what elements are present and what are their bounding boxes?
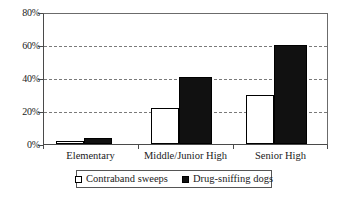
x-axis-tick-mark-right	[327, 145, 328, 149]
legend-entry-contraband-sweeps: Contraband sweeps	[75, 173, 168, 185]
bar-middle-junior-high-contraband-sweeps	[151, 108, 179, 144]
legend-entry-drug-sniffing-dogs: Drug-sniffing dogs	[182, 173, 273, 185]
bar-elementary-drug-sniffing-dogs	[84, 138, 112, 145]
bars-layer	[44, 14, 327, 144]
x-axis-tick-mark-left	[43, 145, 44, 149]
bar-group-senior-high	[246, 14, 321, 144]
y-axis-tick-label-0: 0%	[0, 140, 40, 150]
y-axis-tick-label-80: 80%	[0, 8, 40, 18]
bar-senior-high-drug-sniffing-dogs	[274, 45, 307, 144]
x-axis-label-middle-junior-high: Middle/Junior High	[138, 150, 233, 162]
x-axis-tick-mark-1	[138, 145, 139, 149]
legend-label-drug-sniffing-dogs: Drug-sniffing dogs	[193, 173, 273, 185]
white-square-icon	[75, 176, 82, 183]
bar-middle-junior-high-drug-sniffing-dogs	[179, 77, 212, 144]
x-axis-tick-mark-2	[233, 145, 234, 149]
bar-chart: 80% 60% 40% 20% 0% Elementary Middle/J	[0, 0, 343, 200]
bar-senior-high-contraband-sweeps	[246, 95, 274, 144]
y-axis-tick-label-40: 40%	[0, 74, 40, 84]
bar-group-elementary	[56, 14, 131, 144]
y-axis-tick-label-60: 60%	[0, 41, 40, 51]
y-axis-tick-label-20: 20%	[0, 107, 40, 117]
bar-group-middle-junior-high	[151, 14, 226, 144]
black-square-icon	[182, 176, 189, 183]
bar-elementary-contraband-sweeps	[56, 141, 84, 144]
chart-legend: Contraband sweeps Drug-sniffing dogs	[76, 170, 272, 188]
legend-label-contraband-sweeps: Contraband sweeps	[86, 173, 168, 185]
x-axis-label-elementary: Elementary	[43, 150, 138, 162]
x-axis-label-senior-high: Senior High	[233, 150, 328, 162]
